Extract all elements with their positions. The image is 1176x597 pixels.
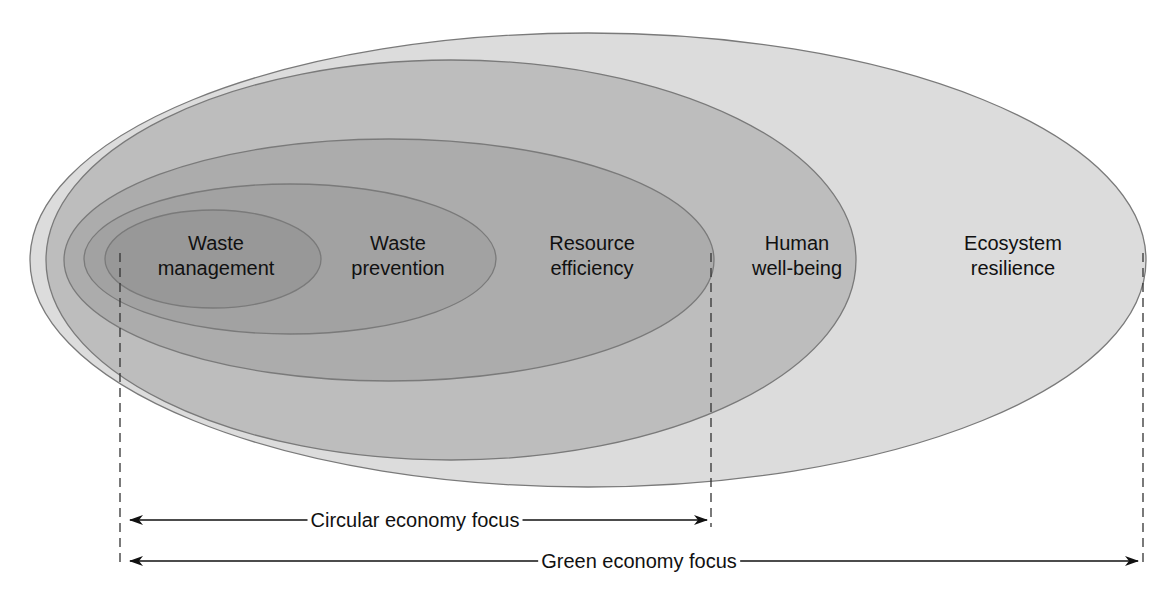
diagram-canvas (0, 0, 1176, 597)
label-line-2: efficiency (549, 256, 635, 281)
label-line-2: prevention (351, 256, 444, 281)
nested-economy-diagram: Ecosystem resilience Human well-being Re… (0, 0, 1176, 597)
label-resource-efficiency: Resource efficiency (549, 231, 635, 281)
label-line-1: Resource (549, 231, 635, 256)
green-economy-focus-label: Green economy focus (538, 549, 740, 573)
label-human-well-being: Human well-being (752, 231, 842, 281)
label-line-1: Human (752, 231, 842, 256)
circular-economy-focus-label: Circular economy focus (308, 508, 523, 532)
label-line-2: management (158, 256, 275, 281)
label-waste-management: Waste management (158, 231, 275, 281)
label-line-1: Ecosystem (964, 231, 1062, 256)
label-line-1: Waste (351, 231, 444, 256)
label-line-1: Waste (158, 231, 275, 256)
label-line-2: well-being (752, 256, 842, 281)
label-waste-prevention: Waste prevention (351, 231, 444, 281)
label-ecosystem-resilience: Ecosystem resilience (964, 231, 1062, 281)
label-line-2: resilience (964, 256, 1062, 281)
